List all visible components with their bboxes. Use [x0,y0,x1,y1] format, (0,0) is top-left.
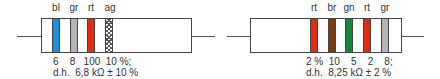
band-blue [52,19,60,52]
band-values-line: 2 % 10 5 2 8; [306,56,393,67]
band-code-label: gr [375,2,395,13]
resistor-body-left [41,18,192,53]
band-red [310,19,318,52]
band-silver-hatched [105,19,113,52]
resistance-description: d.h. 6,8 kΩ ± 10 % [53,67,138,78]
band-code-label: gn [339,2,359,13]
band-gray [381,19,389,52]
band-red [363,19,371,52]
band-code-label: rt [81,2,101,13]
band-code-label: bl [46,2,66,13]
resistor-body-right [250,18,402,53]
band-brown [328,19,336,52]
band-code-label: ag [100,2,120,13]
band-code-label: rt [357,2,377,13]
lead-left-out [191,36,215,37]
band-green [345,19,353,52]
band-code-label: rt [304,2,324,13]
band-values-line: 6 8 100 10 %; [53,56,131,67]
band-red [87,19,95,52]
lead-right-in [227,36,250,37]
band-gray [70,19,78,52]
lead-right-out [401,36,424,37]
lead-left-in [17,36,41,37]
resistance-description: d.h. 8,25 kΩ ± 2 % [306,67,391,78]
